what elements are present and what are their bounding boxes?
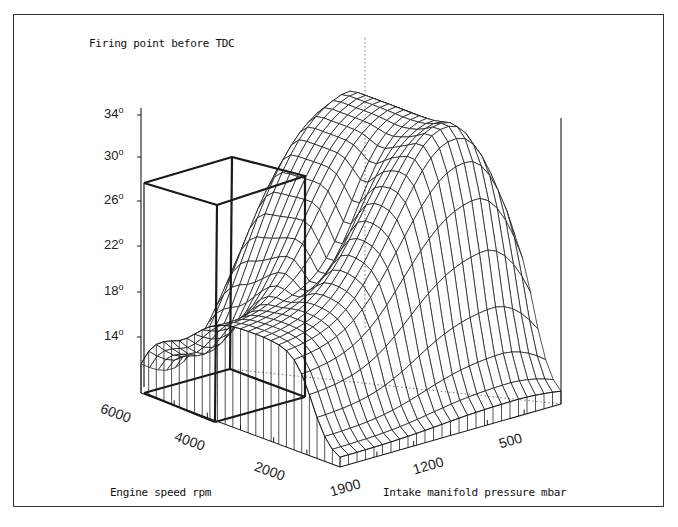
surface-plot (0, 0, 678, 527)
degree-symbol: o (118, 236, 123, 246)
degree-symbol: o (118, 191, 123, 201)
z-tick-label: 22o (104, 236, 123, 252)
chart-title: Firing point before TDC (89, 37, 234, 50)
degree-symbol: o (118, 327, 123, 337)
highlight-box-bottom-right (215, 397, 305, 422)
degree-symbol: o (118, 105, 123, 115)
degree-symbol: o (118, 282, 123, 292)
y-axis-label: Intake manifold pressure mbar (383, 486, 566, 499)
z-tick-label: 26o (104, 191, 123, 207)
highlight-box-edge-back (230, 157, 232, 369)
z-tick-label: 34o (104, 105, 123, 121)
highlight-box-edge-front (215, 205, 217, 422)
z-tick-label: 30o (104, 147, 123, 163)
highlight-box-bottom-back (144, 369, 305, 397)
x-axis-label: Engine speed rpm (110, 486, 211, 499)
z-tick-label: 14o (104, 327, 123, 343)
degree-symbol: o (118, 147, 123, 157)
z-tick-label: 18o (104, 282, 123, 298)
